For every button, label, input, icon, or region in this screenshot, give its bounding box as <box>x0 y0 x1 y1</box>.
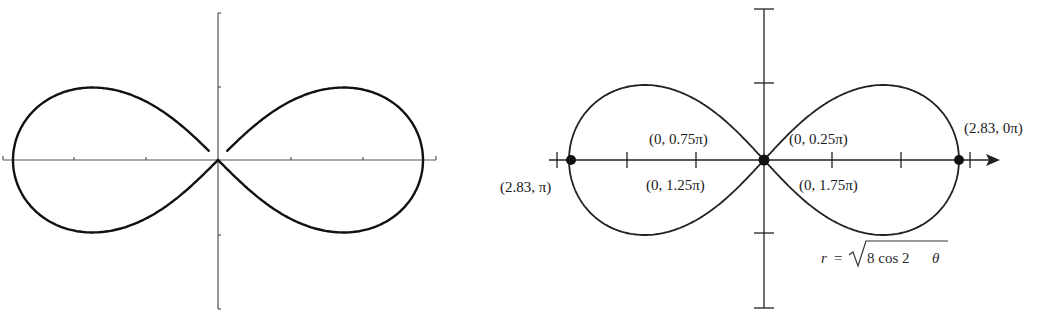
figure: (2.83, π) (0, 0.75π) (0, 1.25π) (0, 0.25… <box>0 0 1051 321</box>
point-dot-left <box>566 155 576 165</box>
right-panel: (2.83, π) (0, 0.75π) (0, 1.25π) (0, 0.25… <box>500 9 1023 308</box>
label-origin-125: (0, 1.25π) <box>646 177 705 194</box>
svg-text:=: = <box>834 250 842 266</box>
label-point-right: (2.83, 0π) <box>964 120 1023 137</box>
equation-label: r = 8 cos 2 θ <box>821 241 948 266</box>
svg-text:θ: θ <box>932 250 940 266</box>
point-dot-right <box>954 155 964 165</box>
left-panel <box>3 13 436 309</box>
label-origin-075: (0, 0.75π) <box>649 131 708 148</box>
label-point-left: (2.83, π) <box>500 179 551 196</box>
svg-text:r: r <box>821 250 827 266</box>
right-x-axis <box>549 152 992 168</box>
point-dot-origin <box>759 155 770 166</box>
label-origin-175: (0, 1.75π) <box>799 177 858 194</box>
svg-text:8 cos 2: 8 cos 2 <box>867 250 910 266</box>
left-x-axis <box>3 156 436 160</box>
label-origin-025: (0, 0.25π) <box>789 131 848 148</box>
